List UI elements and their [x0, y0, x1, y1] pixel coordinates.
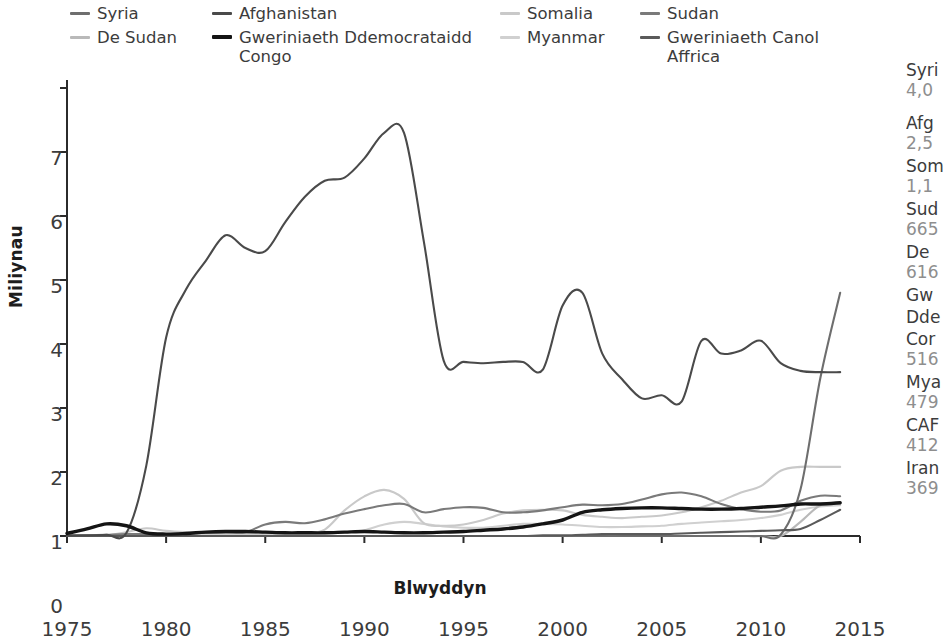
rank-value: 616	[906, 262, 948, 283]
legend-item-label: Gweriniaeth Canol Affrica	[667, 28, 840, 66]
legend-swatch-icon	[640, 12, 660, 15]
y-tick-label: 5	[23, 274, 63, 298]
rank-country-name: Syri	[906, 60, 948, 80]
y-tick-label: 1	[23, 530, 63, 554]
rank-country-name: Sud	[906, 199, 948, 219]
chart-plot-area: Miliynau 01234567 1975198019851990199520…	[0, 72, 880, 572]
rank-row: CAF412	[906, 415, 948, 456]
x-axis-title: Blwyddyn	[0, 578, 880, 598]
legend-item-label: Gweriniaeth Ddemocrataidd Congo	[239, 28, 502, 66]
ranking-side-panel: Syri4,0Afg2,5Som1,1Sud665De 616GwDdeCor5…	[906, 60, 948, 614]
legend-item-0[interactable]: Syria	[70, 4, 200, 23]
rank-row: Dde	[906, 307, 948, 327]
legend-item-5[interactable]: Myanmar	[500, 28, 650, 47]
y-tick-label: 2	[23, 466, 63, 490]
chart-legend: SyriaDe SudanAfghanistanGweriniaeth Ddem…	[0, 0, 880, 72]
y-axis-ticks: 01234567	[0, 144, 62, 624]
legend-swatch-icon	[70, 12, 90, 15]
legend-item-label: Sudan	[667, 4, 719, 23]
rank-row: Gw	[906, 285, 948, 305]
rank-row: De 616	[906, 242, 948, 283]
legend-item-label: De Sudan	[97, 28, 177, 47]
rank-country-name: Cor	[906, 329, 948, 349]
rank-value: 412	[906, 435, 948, 456]
legend-item-3[interactable]: Gweriniaeth Ddemocrataidd Congo	[212, 28, 502, 66]
rank-value: 369	[906, 478, 948, 499]
rank-row: Iran369	[906, 458, 948, 499]
rank-row: Syri4,0	[906, 60, 948, 101]
x-tick-label: 1985	[230, 617, 300, 640]
legend-item-label: Afghanistan	[239, 4, 337, 23]
x-tick-label: 1980	[131, 617, 201, 640]
rank-value: 516	[906, 349, 948, 370]
legend-item-4[interactable]: Somalia	[500, 4, 630, 23]
rank-row: Mya479	[906, 372, 948, 413]
legend-swatch-icon	[212, 35, 232, 39]
rank-country-name: Gw	[906, 285, 948, 305]
x-tick-label: 2005	[627, 617, 697, 640]
rank-row: Som1,1	[906, 156, 948, 197]
x-tick-label: 2010	[726, 617, 796, 640]
legend-item-6[interactable]: Sudan	[640, 4, 770, 23]
x-axis-ticks: 197519801985199019952000200520102015	[0, 617, 880, 640]
legend-item-label: Syria	[97, 4, 139, 23]
line-chart-svg	[0, 72, 880, 572]
legend-item-label: Somalia	[527, 4, 593, 23]
y-tick-label: 3	[23, 402, 63, 426]
legend-swatch-icon	[500, 36, 520, 39]
rank-country-name: Iran	[906, 458, 948, 478]
legend-item-2[interactable]: Afghanistan	[212, 4, 412, 23]
rank-value: 479	[906, 392, 948, 413]
rank-row: Sud665	[906, 199, 948, 240]
y-tick-label: 4	[23, 338, 63, 362]
rank-country-name: Dde	[906, 307, 948, 327]
rank-value: 2,5	[906, 133, 948, 154]
rank-value: 665	[906, 219, 948, 240]
y-tick-label: 6	[23, 210, 63, 234]
rank-country-name: De	[906, 242, 948, 262]
legend-swatch-icon	[70, 36, 90, 39]
rank-country-name: Mya	[906, 372, 948, 392]
rank-country-name: CAF	[906, 415, 948, 435]
series-line-afghanistan	[67, 124, 840, 539]
legend-swatch-icon	[500, 12, 520, 15]
y-tick-label: 7	[23, 146, 63, 170]
rank-value: 1,1	[906, 176, 948, 197]
rank-country-name: Som	[906, 156, 948, 176]
legend-swatch-icon	[212, 12, 232, 15]
x-tick-label: 2015	[825, 617, 895, 640]
rank-row: Cor516	[906, 329, 948, 370]
series-line-syria	[67, 293, 840, 539]
legend-swatch-icon	[640, 36, 660, 39]
rank-country-name: Afg	[906, 113, 948, 133]
legend-item-7[interactable]: Gweriniaeth Canol Affrica	[640, 28, 840, 66]
legend-item-label: Myanmar	[527, 28, 605, 47]
x-tick-label: 1995	[429, 617, 499, 640]
x-tick-label: 2000	[528, 617, 598, 640]
series-line-somalia	[67, 467, 840, 536]
rank-value: 4,0	[906, 80, 948, 101]
x-tick-label: 1990	[329, 617, 399, 640]
rank-row: Afg2,5	[906, 113, 948, 154]
legend-item-1[interactable]: De Sudan	[70, 28, 230, 47]
x-tick-label: 1975	[32, 617, 102, 640]
